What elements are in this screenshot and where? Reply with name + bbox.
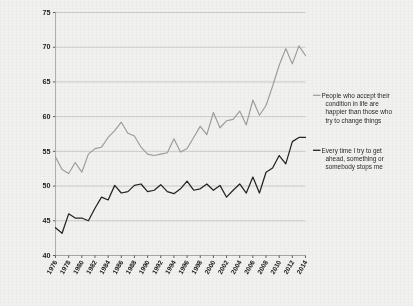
x-tick-label-2004: 2004 xyxy=(229,259,243,275)
legend-label-accept-condition-line-2: happier than those who xyxy=(326,108,393,116)
series-line-accept-condition xyxy=(56,46,306,174)
data-series-group xyxy=(56,46,306,233)
x-tick-label-1998: 1998 xyxy=(190,259,204,275)
x-tick-label-1994: 1994 xyxy=(164,259,178,275)
gridlines-group xyxy=(56,13,306,256)
x-tick-label-1988: 1988 xyxy=(124,259,138,275)
legend-label-something-stops-me-line-1: ahead, something or xyxy=(326,155,385,163)
y-tick-label-55: 55 xyxy=(43,147,51,156)
x-tick-label-1992: 1992 xyxy=(150,259,164,275)
y-tick-label-70: 70 xyxy=(43,42,51,51)
y-tick-label-60: 60 xyxy=(43,112,51,121)
x-tick-label-1996: 1996 xyxy=(177,259,191,275)
x-tick-label-1990: 1990 xyxy=(137,259,151,275)
x-axis xyxy=(56,13,306,256)
legend-label-accept-condition-line-0: People who accept their xyxy=(322,92,391,100)
legend-label-accept-condition-line-1: condition in life are xyxy=(326,100,380,107)
x-tick-label-2010: 2010 xyxy=(269,259,283,275)
x-tick-label-2014: 2014 xyxy=(295,259,309,275)
x-tick-label-2000: 2000 xyxy=(203,259,217,275)
line-chart: 4045505560657075 19761978198019821984198… xyxy=(0,0,413,306)
x-tick-label-1978: 1978 xyxy=(58,259,72,275)
y-tick-label-50: 50 xyxy=(43,181,51,190)
x-tick-label-2012: 2012 xyxy=(282,259,296,275)
y-tick-label-45: 45 xyxy=(43,216,51,225)
legend-label-something-stops-me-line-2: somebody stops me xyxy=(326,163,384,171)
x-tick-label-1980: 1980 xyxy=(71,259,85,275)
y-tick-label-65: 65 xyxy=(43,77,51,86)
chart-canvas: 4045505560657075 19761978198019821984198… xyxy=(0,0,413,306)
y-tick-label-75: 75 xyxy=(43,8,51,17)
x-tick-label-2006: 2006 xyxy=(243,259,257,275)
x-tick-label-1976: 1976 xyxy=(45,259,59,275)
chart-legend: People who accept theircondition in life… xyxy=(313,92,392,172)
y-tick-label-40: 40 xyxy=(43,251,51,260)
x-tick-label-1986: 1986 xyxy=(111,259,125,275)
x-tick-label-2002: 2002 xyxy=(216,259,230,275)
x-tick-label-1982: 1982 xyxy=(85,259,99,275)
x-tick-label-2008: 2008 xyxy=(256,259,270,275)
legend-label-something-stops-me-line-0: Every time I try to get xyxy=(322,147,383,155)
legend-label-accept-condition-line-3: try to change things xyxy=(326,117,382,125)
y-axis-tick-labels: 4045505560657075 xyxy=(43,8,56,260)
x-axis-tick-labels: 1976197819801982198419861988199019921994… xyxy=(45,256,309,276)
x-tick-label-1984: 1984 xyxy=(98,259,112,275)
